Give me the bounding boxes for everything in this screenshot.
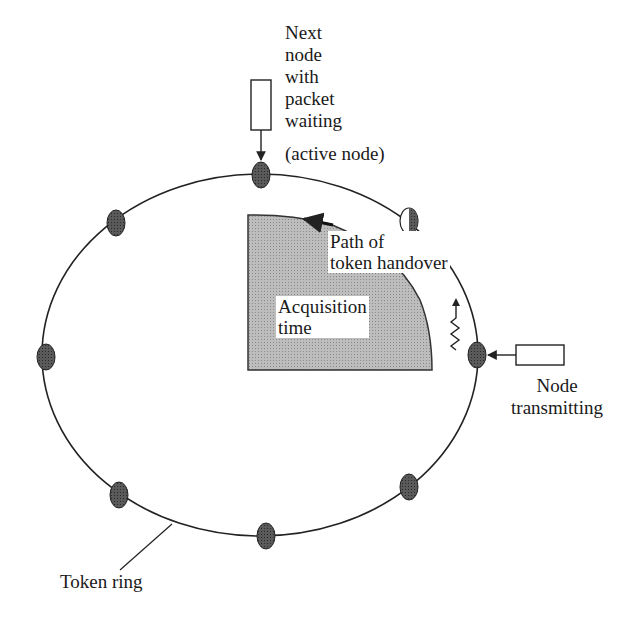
node-transmitting-label: Node transmitting	[488, 375, 624, 419]
node-left	[37, 344, 55, 370]
node-right-transmitting	[468, 342, 486, 368]
token-ring-leader	[120, 524, 172, 570]
node-top-active	[252, 162, 270, 188]
node-bottom	[257, 523, 275, 549]
transmit-packet-box	[516, 345, 564, 365]
token-ring-label: Token ring	[60, 571, 143, 593]
waiting-packet-box	[251, 80, 271, 130]
acquisition-time-label: Acquisition time	[276, 296, 369, 338]
active-node-label: (active node)	[285, 143, 385, 165]
up-arrow-icon	[452, 298, 460, 306]
node-bottom-left	[110, 482, 128, 508]
node-top-left	[107, 210, 125, 236]
node-bottom-right	[400, 474, 418, 500]
path-of-handover-label: Path of token handover	[328, 231, 450, 273]
signal-zigzag-icon	[451, 304, 459, 350]
next-node-label: Next node with packet waiting	[285, 22, 342, 132]
